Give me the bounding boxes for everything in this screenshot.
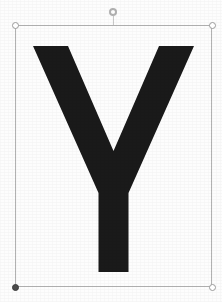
artboard-canvas[interactable]: [0, 0, 222, 302]
resize-handle-top-right[interactable]: [209, 22, 216, 29]
rotation-handle[interactable]: [109, 8, 117, 16]
letter-y-glyph[interactable]: [15, 25, 212, 287]
resize-handle-top-left[interactable]: [12, 22, 19, 29]
rotation-handle-stem: [113, 16, 114, 25]
letter-y-path: [33, 46, 194, 272]
resize-handle-bottom-left[interactable]: [12, 284, 19, 291]
resize-handle-bottom-right[interactable]: [209, 284, 216, 291]
